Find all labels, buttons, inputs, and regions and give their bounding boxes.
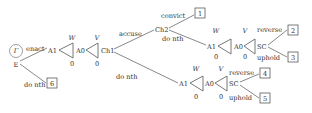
game-tree-diagram: Γ E enact do nth 6 A1 W 0 A0 V 0 Ch1 acc… bbox=[0, 0, 312, 113]
triangle-A1-lower bbox=[190, 76, 203, 91]
node-Ch1: Ch1 bbox=[101, 47, 115, 55]
outcome-box-5: 5 bbox=[260, 93, 270, 103]
svg-text:2: 2 bbox=[291, 27, 295, 35]
edge-label-do-nth-Ch2: do nth bbox=[162, 35, 184, 43]
node-A0-first: A0 bbox=[75, 47, 85, 55]
triangle-top-V-first: V bbox=[95, 34, 101, 42]
edge-label-uphold-upper: uphold bbox=[257, 54, 281, 62]
svg-text:6: 6 bbox=[50, 80, 54, 88]
triangle-bottom-0-upper: 0 bbox=[214, 53, 218, 61]
edge-label-convict: convict bbox=[161, 12, 185, 20]
node-Ch2: Ch2 bbox=[155, 26, 169, 34]
triangle-top-W-lower: W bbox=[193, 65, 201, 73]
triangle-top-V-upper: V bbox=[243, 27, 249, 35]
triangle-bottom-0-first-A0: 0 bbox=[95, 60, 99, 68]
svg-text:3: 3 bbox=[291, 54, 295, 62]
outcome-box-4: 4 bbox=[260, 68, 270, 78]
svg-text:Γ: Γ bbox=[13, 47, 19, 55]
edge-label-uphold-lower: uphold bbox=[229, 94, 253, 102]
node-E: E bbox=[14, 61, 19, 69]
node-A1-lower: A1 bbox=[178, 80, 188, 88]
edge-label-reverse-upper: reverse bbox=[257, 26, 282, 34]
edge-label-enact: enact bbox=[26, 45, 45, 53]
edge-label-do-nth-Ch1: do nth bbox=[116, 73, 138, 81]
node-SC-lower: SC bbox=[229, 80, 239, 88]
svg-text:1: 1 bbox=[198, 10, 202, 18]
node-A1-upper: A1 bbox=[206, 43, 216, 51]
outcome-box-2: 2 bbox=[288, 25, 298, 35]
edge-label-do-nth-E: do nth bbox=[24, 81, 46, 89]
triangle-bottom-0-first: 0 bbox=[70, 60, 74, 68]
svg-text:5: 5 bbox=[263, 95, 267, 103]
triangle-A0-lower bbox=[215, 76, 227, 91]
edge-label-reverse-lower: reverse bbox=[229, 69, 254, 77]
triangle-A0-upper bbox=[244, 39, 255, 54]
triangle-top-V-lower: V bbox=[219, 65, 225, 73]
svg-text:4: 4 bbox=[263, 70, 267, 78]
triangle-A0-first bbox=[86, 43, 98, 58]
start-player-circle: Γ bbox=[10, 45, 23, 58]
triangle-top-W-upper: W bbox=[213, 27, 221, 35]
triangle-bottom-0-lower-A0: 0 bbox=[219, 93, 223, 101]
node-A1-first: A1 bbox=[47, 47, 57, 55]
node-A0-upper: A0 bbox=[233, 43, 243, 51]
edge-label-accuse: accuse bbox=[119, 30, 142, 38]
triangle-top-W-first: W bbox=[69, 34, 77, 42]
triangle-bottom-0-lower: 0 bbox=[194, 93, 198, 101]
outcome-box-3: 3 bbox=[288, 52, 298, 62]
triangle-A1-upper bbox=[218, 39, 231, 54]
triangle-bottom-0-upper-A0: 0 bbox=[243, 53, 247, 61]
outcome-box-6: 6 bbox=[47, 78, 57, 88]
node-A0-lower: A0 bbox=[204, 80, 214, 88]
triangle-A1-first bbox=[59, 43, 73, 58]
node-SC-upper: SC bbox=[257, 43, 267, 51]
outcome-box-1: 1 bbox=[195, 8, 205, 18]
